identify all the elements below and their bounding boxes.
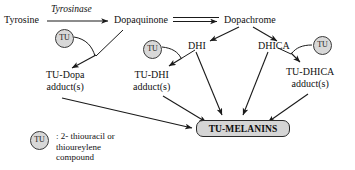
legend-text: : 2- thiouracil or thioureylene compound bbox=[56, 131, 115, 163]
node-tu-dopa-adduct: TU-Dopa adduct(s) bbox=[46, 69, 84, 92]
legend-line-2: thioureylene bbox=[56, 142, 115, 153]
tu-circle-label: TU bbox=[147, 45, 157, 53]
arrow-tu-dhi-adduct-to-melanins bbox=[163, 96, 206, 122]
node-dopachrome: Dopachrome bbox=[224, 14, 276, 25]
tu-circle-legend: TU bbox=[30, 131, 49, 150]
tu-circle-dhica: TU bbox=[313, 36, 332, 55]
node-dhi: DHI bbox=[188, 40, 206, 51]
arrow-dopachrome-to-dhi bbox=[210, 27, 239, 41]
arrow-tu-dopa-adduct-to-melanins bbox=[62, 98, 192, 128]
tu-circle-label: TU bbox=[34, 136, 44, 144]
tu-dopa-adduct-line1: TU-Dopa bbox=[46, 69, 84, 81]
enzyme-label-tyrosinase: Tyrosinase bbox=[51, 4, 92, 14]
tu-circle-label: TU bbox=[317, 41, 327, 49]
tu-circle-dopaquinone: TU bbox=[55, 29, 74, 48]
arrow-tu-dhica-adduct-to-melanins bbox=[268, 94, 308, 122]
pathway-diagram: Tyrosinase Tyrosine Dopaquinone Dopachro… bbox=[0, 0, 355, 170]
tu-dhica-adduct-line2: adduct(s) bbox=[286, 78, 334, 90]
node-dhica: DHICA bbox=[258, 40, 290, 51]
node-tu-dhi-adduct: TU-DHI adduct(s) bbox=[133, 69, 170, 92]
node-dopaquinone: Dopaquinone bbox=[114, 14, 168, 25]
connector-tu1-to-dopa-adduct bbox=[72, 30, 123, 68]
tu-dopa-adduct-line2: adduct(s) bbox=[46, 81, 84, 93]
node-tu-melanins: TU-MELANINS bbox=[196, 120, 290, 137]
arrow-dopachrome-to-dhica bbox=[253, 27, 277, 41]
tu-circle-dhi: TU bbox=[143, 40, 162, 59]
tu-dhi-adduct-line2: adduct(s) bbox=[133, 81, 170, 93]
tu-dhi-adduct-line1: TU-DHI bbox=[133, 69, 170, 81]
node-tyrosine: Tyrosine bbox=[4, 14, 39, 25]
tu-circle-label: TU bbox=[59, 34, 69, 42]
arrow-dhica-to-melanins bbox=[243, 52, 268, 115]
tu-melanins-label: TU-MELANINS bbox=[209, 124, 278, 134]
tu-dhica-adduct-line1: TU-DHICA bbox=[286, 66, 334, 78]
legend-line-3: compound bbox=[56, 152, 115, 163]
arrow-dopaquinone-to-dopachrome bbox=[173, 18, 219, 22]
node-tu-dhica-adduct: TU-DHICA adduct(s) bbox=[286, 66, 334, 89]
arrow-dhi-to-melanins bbox=[196, 52, 222, 115]
legend-line-1: : 2- thiouracil or bbox=[56, 131, 115, 142]
